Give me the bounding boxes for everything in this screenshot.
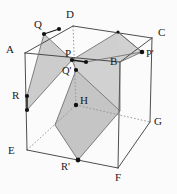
edge-E-F — [27, 150, 118, 168]
label-A: A — [6, 44, 14, 55]
segment-Q-P — [44, 29, 59, 34]
cube-diagram-svg — [0, 0, 177, 194]
label-F: F — [115, 172, 121, 183]
label-Q-prime: Q' — [62, 66, 71, 77]
point-H — [74, 103, 78, 107]
point-P-right — [84, 60, 88, 64]
label-P: P — [65, 48, 71, 59]
label-Q: Q — [34, 19, 42, 30]
point-R-low — [25, 108, 29, 112]
label-R-prime: R' — [61, 162, 70, 173]
label-E: E — [8, 145, 15, 156]
label-D: D — [66, 9, 74, 20]
point-Q-mid — [57, 27, 61, 31]
label-R: R — [12, 90, 19, 101]
point-top-apex — [116, 30, 119, 33]
label-P-prime: P' — [146, 49, 154, 60]
point-Q — [42, 32, 46, 36]
point-P-prime — [140, 50, 145, 55]
point-Q-prime — [74, 68, 78, 72]
geometry-figure: A B C D E F G H P P' Q Q' R R' — [0, 0, 177, 194]
point-R-prime — [76, 158, 81, 163]
edge-F-G — [118, 122, 150, 168]
label-C: C — [158, 27, 165, 38]
point-R — [25, 94, 29, 98]
label-G: G — [154, 116, 162, 127]
label-B: B — [110, 56, 117, 67]
label-H: H — [80, 95, 88, 106]
